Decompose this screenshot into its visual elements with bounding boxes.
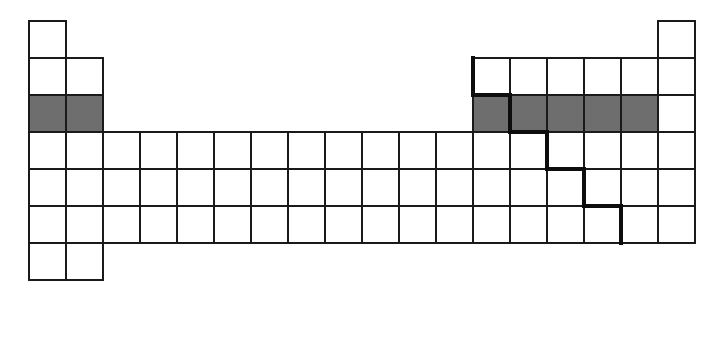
element-cell <box>28 57 67 96</box>
element-cell <box>620 57 659 96</box>
element-cell <box>250 205 289 244</box>
element-cell <box>176 131 215 170</box>
element-cell <box>287 168 326 207</box>
element-cell <box>102 131 141 170</box>
staircase-segment <box>545 167 586 171</box>
element-cell <box>398 205 437 244</box>
element-cell <box>28 94 67 133</box>
element-cell <box>509 205 548 244</box>
staircase-segment <box>582 204 623 208</box>
element-cell <box>546 168 585 207</box>
element-cell <box>287 205 326 244</box>
periodic-table-diagram: Blank periodic table grid with shaded pe… <box>0 0 709 349</box>
element-cell <box>176 168 215 207</box>
element-cell <box>65 205 104 244</box>
element-cell <box>620 205 659 244</box>
element-cell <box>28 131 67 170</box>
element-cell <box>324 131 363 170</box>
element-cell <box>583 205 622 244</box>
element-cell <box>324 205 363 244</box>
element-cell <box>28 168 67 207</box>
element-cell <box>620 131 659 170</box>
element-cell <box>28 205 67 244</box>
element-cell <box>213 205 252 244</box>
element-cell <box>472 57 511 96</box>
element-cell <box>398 131 437 170</box>
element-cell <box>28 20 67 59</box>
element-cell <box>250 168 289 207</box>
element-cell <box>324 168 363 207</box>
element-cell <box>139 131 178 170</box>
element-cell <box>65 242 104 281</box>
element-cell <box>657 205 696 244</box>
element-cell <box>361 168 400 207</box>
element-cell <box>583 168 622 207</box>
element-cell <box>657 168 696 207</box>
element-cell <box>583 131 622 170</box>
element-cell <box>176 205 215 244</box>
element-cell <box>250 131 289 170</box>
element-cell <box>546 205 585 244</box>
element-cell <box>213 168 252 207</box>
element-cell <box>102 205 141 244</box>
element-cell <box>213 131 252 170</box>
element-cell <box>472 131 511 170</box>
element-cell <box>472 168 511 207</box>
element-cell <box>435 168 474 207</box>
element-cell <box>65 131 104 170</box>
staircase-segment <box>508 130 549 134</box>
staircase-segment <box>508 93 512 134</box>
staircase-segment <box>545 130 549 171</box>
element-cell <box>435 205 474 244</box>
element-cell <box>509 168 548 207</box>
element-cell <box>583 94 622 133</box>
element-cell <box>65 168 104 207</box>
staircase-segment <box>471 56 475 97</box>
element-cell <box>435 131 474 170</box>
element-cell <box>361 205 400 244</box>
element-cell <box>546 94 585 133</box>
element-cell <box>657 20 696 59</box>
element-cell <box>28 242 67 281</box>
element-cell <box>139 168 178 207</box>
element-cell <box>657 57 696 96</box>
element-cell <box>583 57 622 96</box>
element-cell <box>509 57 548 96</box>
element-cell <box>657 131 696 170</box>
element-cell <box>102 168 141 207</box>
element-cell <box>509 94 548 133</box>
element-cell <box>472 94 511 133</box>
element-cell <box>509 131 548 170</box>
element-cell <box>287 131 326 170</box>
element-cell <box>620 94 659 133</box>
staircase-segment <box>471 93 512 97</box>
element-cell <box>398 168 437 207</box>
element-cell <box>657 94 696 133</box>
element-cell <box>65 94 104 133</box>
element-cell <box>546 131 585 170</box>
element-cell <box>546 57 585 96</box>
staircase-segment <box>582 167 586 208</box>
staircase-segment <box>619 204 623 245</box>
element-cell <box>620 168 659 207</box>
element-cell <box>361 131 400 170</box>
element-cell <box>472 205 511 244</box>
element-cell <box>65 57 104 96</box>
element-cell <box>139 205 178 244</box>
